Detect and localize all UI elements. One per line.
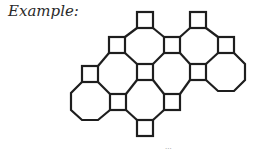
- tiling-diagram: [0, 0, 255, 149]
- square: [82, 66, 98, 82]
- square: [109, 37, 125, 53]
- square: [137, 64, 153, 80]
- square: [110, 94, 126, 110]
- square: [137, 120, 153, 136]
- square: [190, 64, 206, 80]
- square: [164, 94, 180, 110]
- square: [190, 12, 206, 28]
- square: [137, 12, 153, 28]
- cropped-text-fragment: ...: [165, 143, 172, 149]
- square: [218, 37, 234, 53]
- square: [164, 37, 180, 53]
